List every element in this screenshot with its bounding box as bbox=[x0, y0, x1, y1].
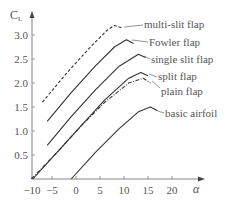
y-tick-label: 2.0 bbox=[14, 77, 28, 89]
x-axis-title: α bbox=[193, 182, 200, 196]
series-single-slit-flap bbox=[47, 54, 145, 145]
x-tick-label: −5 bbox=[46, 184, 58, 196]
x-axis-arrow-icon bbox=[198, 177, 205, 182]
y-axis-title: CL bbox=[10, 8, 22, 23]
series-labels: multi-slit flap Fowler flap single slit … bbox=[144, 18, 217, 119]
x-tick-label: 15 bbox=[143, 184, 155, 196]
label-fowler-flap: Fowler flap bbox=[149, 36, 201, 48]
series-basic-airfoil bbox=[71, 107, 157, 179]
label-plain-flap: plain flap bbox=[161, 85, 203, 97]
x-tick-label: 20 bbox=[167, 184, 179, 196]
y-tick-labels: 0.51.01.52.02.53.0 bbox=[14, 29, 28, 161]
label-single-slit-flap: single slit flap bbox=[151, 53, 214, 65]
label-basic-airfoil: basic airfoil bbox=[165, 107, 217, 119]
label-split-flap: split flap bbox=[158, 70, 197, 82]
x-tick-label: 0 bbox=[73, 184, 79, 196]
y-tick-label: 0.5 bbox=[14, 149, 28, 161]
x-tick-label: 10 bbox=[119, 184, 131, 196]
label-multi-slit-flap: multi-slit flap bbox=[144, 18, 205, 30]
lift-coefficient-chart: 0.51.01.52.02.53.0 −10−505101520 CL α mu… bbox=[0, 0, 225, 205]
series-lines bbox=[31, 25, 157, 179]
x-tick-label: −10 bbox=[23, 184, 41, 196]
y-tick-label: 3.0 bbox=[14, 29, 28, 41]
series-multi-slit-flap bbox=[42, 25, 121, 102]
x-tick-label: 5 bbox=[97, 184, 103, 196]
y-axis-arrow-icon bbox=[30, 11, 35, 18]
y-tick-label: 1.0 bbox=[14, 125, 28, 137]
series-split-flap bbox=[33, 72, 148, 179]
x-tick-labels: −10−505101520 bbox=[23, 184, 178, 196]
y-tick-label: 2.5 bbox=[14, 53, 28, 65]
y-tick-label: 1.5 bbox=[14, 101, 28, 113]
